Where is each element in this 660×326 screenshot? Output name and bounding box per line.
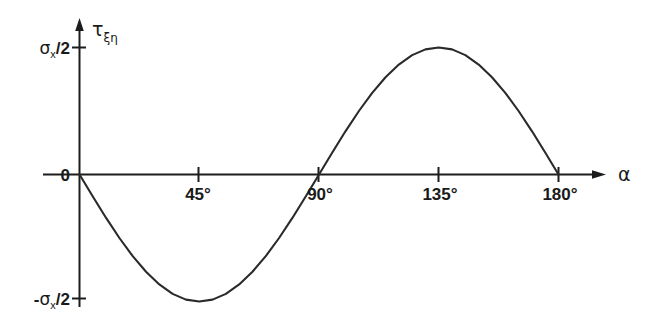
chart-figure: σx/2 0 -σx/2 τξη α 45° 90° 135° 180° <box>0 0 660 326</box>
tau-symbol: τ <box>92 18 103 40</box>
x-tick-label-45: 45° <box>185 185 211 204</box>
over-two-suffix-neg: /2 <box>56 290 70 309</box>
chart-background <box>0 0 660 326</box>
over-two-suffix: /2 <box>56 39 70 58</box>
y-axis-zero-label: 0 <box>61 166 70 185</box>
x-tick-label-135: 135° <box>422 185 457 204</box>
sigma-symbol: σ <box>40 38 51 58</box>
chart-svg: σx/2 0 -σx/2 τξη α 45° 90° 135° 180° <box>0 0 660 326</box>
x-tick-label-180: 180° <box>542 185 577 204</box>
x-axis-title: α <box>618 163 631 185</box>
sigma-symbol-neg: σ <box>40 289 51 309</box>
tau-subscript: ξη <box>103 31 117 45</box>
x-tick-label-90: 90° <box>307 185 333 204</box>
